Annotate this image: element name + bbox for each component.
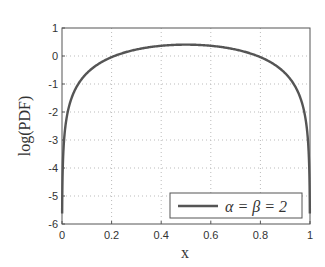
y-axis-label: log(PDF) [16,96,34,156]
x-tick-label: 1 [307,229,313,241]
y-tick-label: -3 [48,134,58,146]
x-tick-label: 0.8 [253,229,268,241]
y-tick-label: -5 [48,190,58,202]
y-tick-label: -2 [48,106,58,118]
y-tick-label: 1 [52,22,58,34]
legend-label: α = β = 2 [225,198,287,216]
data-line [62,45,310,214]
legend: α = β = 2 [170,193,302,218]
x-tick-label: 0.2 [104,229,119,241]
log-pdf-chart: 00.20.40.60.8110-1-2-3-4-5-6 α = β = 2 x… [0,0,325,267]
y-tick-label: -1 [48,78,58,90]
y-tick-label: -4 [48,162,58,174]
x-axis-label: x [181,244,189,261]
x-tick-label: 0.4 [154,229,169,241]
y-tick-label: -6 [48,218,58,230]
x-tick-label: 0 [59,229,65,241]
x-tick-label: 0.6 [203,229,218,241]
y-tick-label: 0 [52,50,58,62]
